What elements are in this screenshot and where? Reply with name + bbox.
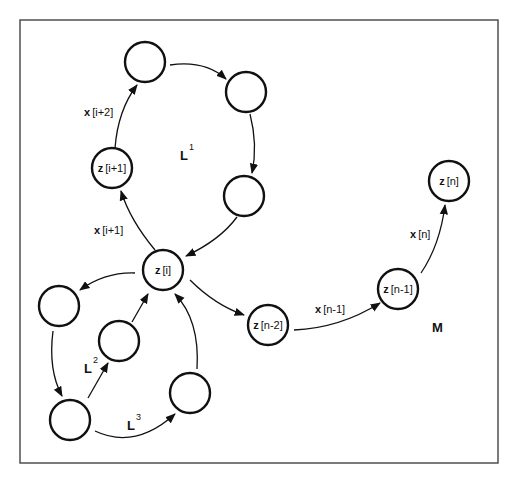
edge-label-x-n: x[n] <box>410 228 430 240</box>
edge-label-x-i-plus-1: x[i+1] <box>94 224 123 236</box>
node-z-n-minus-1: z[n-1] <box>378 269 418 309</box>
svg-text:3: 3 <box>136 412 141 422</box>
svg-text:L: L <box>127 418 135 433</box>
node-z-n: z[n] <box>429 161 469 201</box>
svg-text:M: M <box>432 320 443 335</box>
svg-text:z[n-1]: z[n-1] <box>383 283 413 295</box>
node-z-n-minus-2: z[n-2] <box>248 305 288 345</box>
node-bottom-left <box>50 400 90 440</box>
node-z-i-plus-1: z[i+1] <box>92 148 132 188</box>
svg-text:z[n]: z[n] <box>439 175 459 187</box>
path-label-M: M <box>432 320 443 335</box>
node-top-right <box>226 72 266 112</box>
svg-text:1: 1 <box>189 142 194 152</box>
node-l2-left <box>39 286 79 326</box>
svg-text:L: L <box>180 148 188 163</box>
svg-text:z[n-2]: z[n-2] <box>253 319 283 331</box>
svg-text:L: L <box>84 361 92 376</box>
svg-text:z[i+1]: z[i+1] <box>98 162 127 174</box>
node-l2-mid <box>99 321 139 361</box>
node-top <box>125 42 165 82</box>
edge-label-x-i-plus-2: x[i+2] <box>84 106 113 118</box>
markov-chain-diagram: z[i+1] z[i] z[n-2] z[n-1] z[n] x[i+2] x[… <box>0 0 509 481</box>
svg-text:2: 2 <box>93 355 98 365</box>
node-l3-right <box>170 373 210 413</box>
svg-text:z[i]: z[i] <box>155 264 171 276</box>
node-z-i: z[i] <box>143 250 183 290</box>
edge-label-x-n-minus-1: x[n-1] <box>315 303 345 315</box>
node-l1-right <box>224 176 264 216</box>
